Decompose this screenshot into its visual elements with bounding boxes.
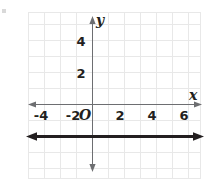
x-tick-label-2: 2 bbox=[113, 109, 127, 122]
x-tick-label-6: 6 bbox=[177, 109, 191, 122]
axis-lines bbox=[28, 16, 202, 172]
y-axis-label: y bbox=[96, 13, 104, 27]
coordinate-plane-graphic bbox=[0, 0, 210, 182]
y-tick-label-2: 2 bbox=[74, 67, 88, 80]
graphed-line-y-equals-negative-2 bbox=[26, 132, 204, 141]
graphed-line-arrow-right-icon bbox=[193, 132, 204, 141]
x-axis-label: x bbox=[189, 88, 197, 102]
grid-lines bbox=[28, 12, 201, 179]
y-axis-arrow-up-icon bbox=[89, 16, 95, 24]
graphed-line-arrow-left-icon bbox=[26, 132, 37, 141]
coordinate-plane-figure: -4 -2 2 4 6 O 4 2 y x bbox=[0, 0, 210, 182]
origin-label: O bbox=[79, 108, 91, 122]
y-tick-label-4: 4 bbox=[74, 35, 88, 48]
x-tick-label-neg4: -4 bbox=[30, 109, 52, 122]
x-tick-label-4: 4 bbox=[145, 109, 159, 122]
x-axis-arrow-left-icon bbox=[28, 101, 36, 107]
